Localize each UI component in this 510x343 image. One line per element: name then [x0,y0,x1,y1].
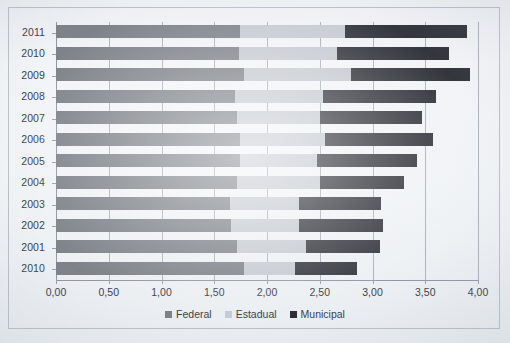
bar-row [56,65,478,87]
bar-segment-estadual [240,154,317,167]
bar-segment-estadual [237,240,306,253]
y-tick-mark [52,97,56,98]
y-tick-label: 2011 [22,26,45,38]
plot-area [56,22,478,280]
stacked-bar [56,90,436,103]
stacked-bar [56,68,470,81]
bar-segment-federal [56,219,231,232]
bar-row [56,259,478,281]
bar-segment-municipal [317,154,417,167]
x-axis-tick-labels: 0,000,501,001,502,002,503,003,504,00 [0,286,510,300]
bar-row [56,87,478,109]
x-tick-label: 4,00 [468,286,488,298]
bar-segment-federal [56,90,235,103]
y-tick-label: 2009 [21,69,45,81]
stacked-bar [56,25,467,38]
bar-segment-estadual [240,25,346,38]
bar-segment-estadual [237,176,319,189]
y-tick-label: 2010 [21,47,45,59]
y-tick-label: 2007 [21,112,45,124]
bar-segment-estadual [239,47,337,60]
bar-segment-estadual [240,133,325,146]
bar-segment-municipal [306,240,380,253]
stacked-bar [56,197,381,210]
x-tick-label: 3,50 [415,286,435,298]
bar-row [56,151,478,173]
y-tick-mark [52,76,56,77]
x-tick-label: 0,00 [46,286,66,298]
y-tick-mark [52,119,56,120]
y-tick-label: 2005 [21,155,45,167]
bar-row [56,130,478,152]
x-tick-mark [109,280,110,284]
y-tick-label: 2001 [21,241,45,253]
stacked-bar [56,240,380,253]
bar-segment-federal [56,154,240,167]
y-tick-label: 2004 [21,176,45,188]
legend-item-estadual: Estadual [225,308,277,320]
bar-segment-federal [56,47,239,60]
y-tick-mark [52,269,56,270]
y-tick-label: 2006 [21,133,45,145]
bar-segment-federal [56,68,244,81]
x-tick-mark [320,280,321,284]
stacked-bar [56,219,383,232]
x-tick-label: 1,00 [151,286,171,298]
bar-row [56,22,478,44]
bar-segment-federal [56,133,240,146]
y-tick-label: 2008 [21,90,45,102]
legend-swatch-federal-icon [165,311,172,318]
stacked-bar [56,176,404,189]
x-tick-mark [425,280,426,284]
bar-row [56,108,478,130]
legend-swatch-municipal-icon [290,311,297,318]
bar-segment-estadual [244,262,296,275]
chart-figure: 2011201020092008200720062005200420032002… [0,0,510,343]
bar-row [56,237,478,259]
bar-segment-estadual [237,111,319,124]
legend-label: Federal [176,308,212,320]
stacked-bar [56,262,357,275]
bar-row [56,194,478,216]
x-tick-mark [162,280,163,284]
bar-segment-municipal [351,68,469,81]
x-tick-label: 1,50 [204,286,224,298]
bar-segment-federal [56,240,237,253]
y-tick-mark [52,205,56,206]
y-tick-mark [52,33,56,34]
chart-legend: FederalEstadualMunicipal [0,308,510,320]
x-tick-mark [267,280,268,284]
stacked-bar [56,133,433,146]
gridline-4-00 [478,22,479,280]
bar-segment-municipal [299,197,381,210]
stacked-bar [56,47,449,60]
y-tick-mark [52,140,56,141]
bar-row [56,216,478,238]
bar-segment-federal [56,197,230,210]
x-tick-mark [373,280,374,284]
y-tick-label: 2002 [21,219,45,231]
x-tick-label: 0,50 [99,286,119,298]
y-tick-mark [52,162,56,163]
stacked-bar-series [56,22,478,280]
bar-segment-estadual [235,90,323,103]
bar-segment-federal [56,176,237,189]
y-axis-category-labels: 2011201020092008200720062005200420032002… [0,22,52,280]
bar-segment-federal [56,262,244,275]
y-tick-mark [52,226,56,227]
bar-segment-municipal [320,176,404,189]
bar-row [56,173,478,195]
bar-segment-federal [56,111,237,124]
legend-swatch-estadual-icon [225,311,232,318]
y-tick-label: 2010 [21,262,45,274]
bar-segment-municipal [299,219,383,232]
bar-segment-municipal [337,47,450,60]
x-tick-label: 3,00 [362,286,382,298]
y-tick-mark [52,183,56,184]
stacked-bar [56,111,422,124]
legend-label: Municipal [301,308,345,320]
bar-segment-estadual [230,197,299,210]
x-tick-label: 2,50 [310,286,330,298]
legend-item-federal: Federal [165,308,212,320]
bar-segment-estadual [244,68,352,81]
